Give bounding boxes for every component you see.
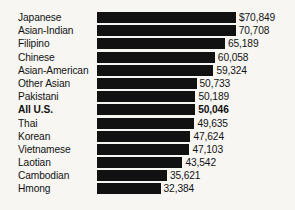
chart-row: Asian-American59,324 [0,64,295,77]
category-label: Thai [18,117,37,130]
bar [97,25,236,36]
bar [97,78,197,89]
category-label: Laotian [18,156,51,169]
bar [97,38,225,49]
category-label: All U.S. [18,103,53,116]
chart-row: Chinese60,058 [0,51,295,64]
chart-row: Thai49,635 [0,117,295,130]
bar [97,183,161,194]
chart-row: All U.S.50,046 [0,103,295,116]
chart-row: Cambodian35,621 [0,169,295,182]
category-label: Hmong [18,182,50,195]
category-label: Pakistani [18,90,58,103]
value-label: 50,733 [200,77,231,90]
value-label: 32,384 [164,182,195,195]
bar [97,65,213,76]
category-label: Other Asian [18,77,70,90]
value-label: 47,624 [193,130,224,143]
value-label: 47,103 [192,143,223,156]
value-label: 50,046 [198,103,229,116]
chart-row: Filipino65,189 [0,37,295,50]
value-label: 59,324 [216,64,247,77]
category-label: Vietnamese [18,143,71,156]
category-label: Chinese [18,51,55,64]
category-label: Asian-American [18,64,89,77]
value-label: 43,542 [185,156,216,169]
bar [97,118,194,129]
bar [97,157,182,168]
chart-row: Korean47,624 [0,130,295,143]
category-label: Filipino [18,37,49,50]
value-label: 49,635 [197,117,228,130]
bar [97,144,189,155]
chart-row: Laotian43,542 [0,156,295,169]
value-label: 50,189 [198,90,229,103]
chart-rows: Japanese$70,849Asian-Indian70,708Filipin… [0,11,295,196]
chart-row: Pakistani50,189 [0,90,295,103]
category-label: Japanese [18,11,61,24]
bar [97,12,236,23]
chart-row: Asian-Indian70,708 [0,24,295,37]
bar [97,91,195,102]
chart-row: Other Asian50,733 [0,77,295,90]
value-label: 65,189 [228,37,259,50]
bar [97,170,167,181]
bar [97,131,190,142]
value-label: 70,708 [239,24,270,37]
bar [97,52,215,63]
bar-chart: Japanese$70,849Asian-Indian70,708Filipin… [0,0,295,210]
value-label: $70,849 [239,11,275,24]
category-label: Korean [18,130,50,143]
category-label: Asian-Indian [18,24,73,37]
chart-row: Hmong32,384 [0,182,295,195]
chart-row: Japanese$70,849 [0,11,295,24]
bar [97,104,195,115]
chart-row: Vietnamese47,103 [0,143,295,156]
category-label: Cambodian [18,169,69,182]
value-label: 60,058 [218,51,249,64]
value-label: 35,621 [170,169,201,182]
